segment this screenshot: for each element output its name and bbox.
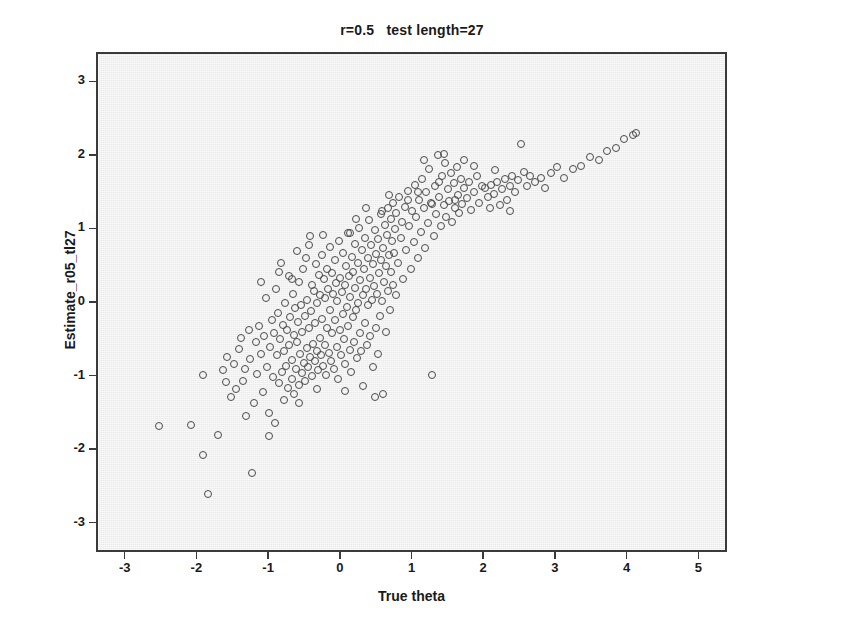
scatter-point: [227, 393, 235, 401]
scatter-point: [470, 188, 478, 196]
scatter-point: [453, 163, 461, 171]
scatter-point: [465, 178, 473, 186]
scatter-point: [304, 363, 312, 371]
scatter-point: [386, 306, 394, 314]
scatter-point: [358, 246, 366, 254]
scatter-point: [569, 165, 577, 173]
scatter-point: [428, 200, 436, 208]
scatter-point: [425, 165, 433, 173]
x-tick-label: -3: [105, 560, 145, 575]
scatter-point: [378, 297, 386, 305]
scatter-point: [277, 259, 285, 267]
scatter-point: [318, 251, 326, 259]
scatter-point: [311, 357, 319, 365]
plot-area: [96, 52, 727, 552]
scatter-point: [303, 296, 311, 304]
x-tick-label: 3: [535, 560, 575, 575]
scatter-point: [334, 375, 342, 383]
scatter-point: [353, 354, 361, 362]
scatter-point: [428, 371, 436, 379]
scatter-point: [319, 362, 327, 370]
scatter-point: [421, 244, 429, 252]
scatter-point: [260, 332, 268, 340]
scatter-point: [331, 256, 339, 264]
scatter-point: [299, 265, 307, 273]
scatter-point: [263, 363, 271, 371]
x-tick-label: 0: [320, 560, 360, 575]
scatter-point: [496, 201, 504, 209]
scatter-point: [302, 254, 310, 262]
scatter-point: [333, 297, 341, 305]
scatter-point: [343, 303, 351, 311]
scatter-point: [294, 318, 302, 326]
scatter-point: [447, 169, 455, 177]
scatter-point: [451, 196, 459, 204]
scatter-point: [230, 360, 238, 368]
scatter-point: [511, 188, 519, 196]
scatter-point: [395, 193, 403, 201]
scatter-point: [441, 159, 449, 167]
scatter-point: [262, 294, 270, 302]
scatter-point: [199, 371, 207, 379]
scatter-point: [380, 278, 388, 286]
scatter-point: [275, 379, 283, 387]
scatter-point: [553, 163, 561, 171]
scatter-point: [281, 299, 289, 307]
scatter-point: [595, 156, 603, 164]
scatter-point: [242, 412, 250, 420]
scatter-point: [394, 259, 402, 267]
x-tick-label: 5: [678, 560, 718, 575]
scatter-point: [422, 188, 430, 196]
x-tick-label: 1: [392, 560, 432, 575]
y-tick-label: -2: [59, 440, 85, 455]
scatter-point: [467, 206, 475, 214]
scatter-point: [407, 265, 415, 273]
scatter-point: [389, 281, 397, 289]
scatter-point: [410, 238, 418, 246]
scatter-point: [339, 249, 347, 257]
scatter-point: [351, 284, 359, 292]
scatter-point: [475, 199, 483, 207]
x-tick-mark: [339, 552, 341, 559]
scatter-point: [290, 390, 298, 398]
scatter-point: [369, 260, 377, 268]
scatter-point: [319, 231, 327, 239]
scatter-point: [255, 322, 263, 330]
scatter-point: [603, 147, 611, 155]
scatter-point: [340, 335, 348, 343]
scatter-point: [341, 281, 349, 289]
scatter-point: [272, 285, 280, 293]
scatter-point: [405, 222, 413, 230]
scatter-point: [366, 332, 374, 340]
scatter-point: [514, 176, 522, 184]
scatter-point: [246, 355, 254, 363]
scatter-point: [374, 350, 382, 358]
scatter-point: [362, 204, 370, 212]
scatter-point: [440, 150, 448, 158]
scatter-point: [418, 175, 426, 183]
y-tick-mark: [89, 154, 96, 156]
y-tick-mark: [89, 81, 96, 83]
y-tick-mark: [89, 228, 96, 230]
scatter-point: [214, 431, 222, 439]
scatter-point: [473, 172, 481, 180]
scatter-point: [404, 187, 412, 195]
x-tick-mark: [554, 552, 556, 559]
scatter-point: [307, 307, 315, 315]
x-tick-label: 4: [607, 560, 647, 575]
scatter-point: [253, 370, 261, 378]
scatter-point: [586, 153, 594, 161]
scatter-point: [265, 409, 273, 417]
scatter-point: [318, 315, 326, 323]
scatter-point: [448, 218, 456, 226]
scatter-point: [245, 326, 253, 334]
scatter-point: [435, 193, 443, 201]
scatter-point: [328, 269, 336, 277]
scatter-point: [378, 207, 386, 215]
scatter-point: [344, 322, 352, 330]
scatter-point: [199, 451, 207, 459]
scatter-point: [437, 222, 445, 230]
scatter-point: [455, 209, 463, 217]
scatter-point: [237, 334, 245, 342]
scatter-point: [265, 432, 273, 440]
